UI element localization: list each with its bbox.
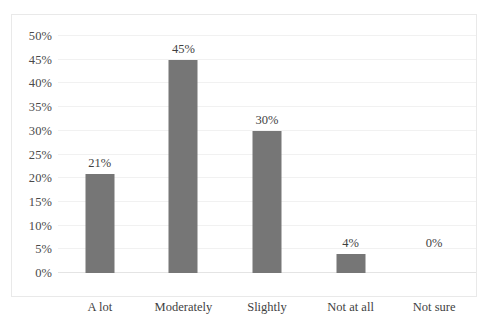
y-tick-label-10: 10% [12,220,52,233]
bar-value-moderately: 45% [172,43,195,56]
bar-a-lot[interactable] [85,174,114,274]
bar-series: 21% A lot 45% Moderately 30% Slightly 4%… [58,35,476,273]
bar-slot-a-lot: 21% A lot [58,35,142,273]
y-tick-label-5: 5% [12,243,52,256]
category-label-not-sure: Not sure [413,301,456,314]
chart-frame: 50% 45% 40% 35% 30% 25% 20% 15% 10% 5% 0… [11,14,477,297]
bar-value-not-at-all: 4% [342,237,359,250]
y-tick-label-35: 35% [12,101,52,114]
y-tick-label-20: 20% [12,172,52,185]
bar-not-at-all[interactable] [336,254,365,273]
bar-slot-moderately: 45% Moderately [142,35,226,273]
category-label-a-lot: A lot [87,301,112,314]
y-tick-label-30: 30% [12,125,52,138]
bar-slot-not-sure: 0% Not sure [392,35,476,273]
bar-slot-not-at-all: 4% Not at all [309,35,393,273]
bar-value-a-lot: 21% [88,157,111,170]
y-tick-label-40: 40% [12,77,52,90]
plot-area: 50% 45% 40% 35% 30% 25% 20% 15% 10% 5% 0… [58,35,476,273]
category-label-slightly: Slightly [247,301,287,314]
y-tick-label-15: 15% [12,196,52,209]
bar-slightly[interactable] [252,131,281,273]
bar-value-not-sure: 0% [426,237,443,250]
y-tick-label-50: 50% [12,30,52,43]
category-label-moderately: Moderately [155,301,213,314]
y-tick-label-25: 25% [12,149,52,162]
y-tick-label-45: 45% [12,54,52,67]
bar-moderately[interactable] [169,60,198,273]
bar-slot-slightly: 30% Slightly [225,35,309,273]
y-tick-label-0: 0% [12,267,52,280]
bar-value-slightly: 30% [256,114,279,127]
category-label-not-at-all: Not at all [327,301,374,314]
